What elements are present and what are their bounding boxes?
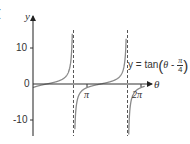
y-tick-label-0: 0 [24, 79, 30, 89]
asymptote-lines [73, 30, 127, 136]
x-axis-label: θ [154, 79, 159, 90]
x-tick-label-pi: π [84, 90, 89, 100]
right-paren: ) [183, 57, 188, 74]
tangent-branch [33, 34, 72, 88]
function-minus: - [168, 59, 177, 70]
y-axis-label: y [25, 11, 30, 22]
y-tick-label-10: 10 [16, 43, 27, 53]
y-tick-label-minus-10: -10 [13, 115, 27, 125]
panel-label: ( [0, 8, 1, 19]
function-label: y = tan(θ - π4) [128, 57, 188, 74]
function-prefix: y = tan [128, 59, 158, 70]
x-tick-label-2pi: 2π [132, 90, 142, 100]
